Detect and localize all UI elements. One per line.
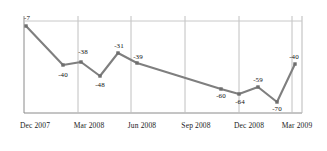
x-tick-mar-2008: Mar 2008	[74, 121, 105, 130]
data-line-series-1	[26, 26, 295, 102]
data-label-1: -7	[24, 14, 30, 22]
data-point-marker	[24, 24, 27, 27]
data-label-8: -64	[235, 98, 245, 106]
line-chart: -7 -40 -38 -48 -31 -39 -60 -64 -59 -70 -…	[0, 0, 327, 151]
data-point-marker	[79, 60, 82, 63]
data-point-marker	[61, 63, 64, 66]
data-point-marker	[256, 85, 259, 88]
x-tick-jun-2008: Jun 2008	[128, 121, 157, 130]
data-label-2: -40	[58, 71, 68, 79]
x-tick-dec-2007: Dec 2007	[20, 121, 50, 130]
data-label-9: -59	[253, 76, 263, 84]
data-point-marker	[219, 87, 222, 90]
data-point-marker	[237, 92, 240, 95]
data-label-3: -38	[78, 48, 88, 56]
data-point-marker	[275, 100, 278, 103]
data-label-11: -40	[289, 53, 299, 61]
x-tick-dec-2008: Dec 2008	[234, 121, 264, 130]
data-point-marker	[135, 61, 138, 64]
data-point-marker	[116, 51, 119, 54]
x-tick-mar-2009: Mar 2009	[282, 121, 313, 130]
data-label-4: -48	[95, 81, 105, 89]
data-label-6: -39	[133, 53, 143, 61]
data-point-marker	[293, 62, 296, 65]
data-label-10: -70	[272, 105, 282, 113]
data-point-marker	[98, 74, 101, 77]
data-label-7: -60	[216, 92, 226, 100]
data-label-5: -31	[114, 42, 124, 50]
x-tick-sep-2008: Sep 2008	[181, 121, 210, 130]
